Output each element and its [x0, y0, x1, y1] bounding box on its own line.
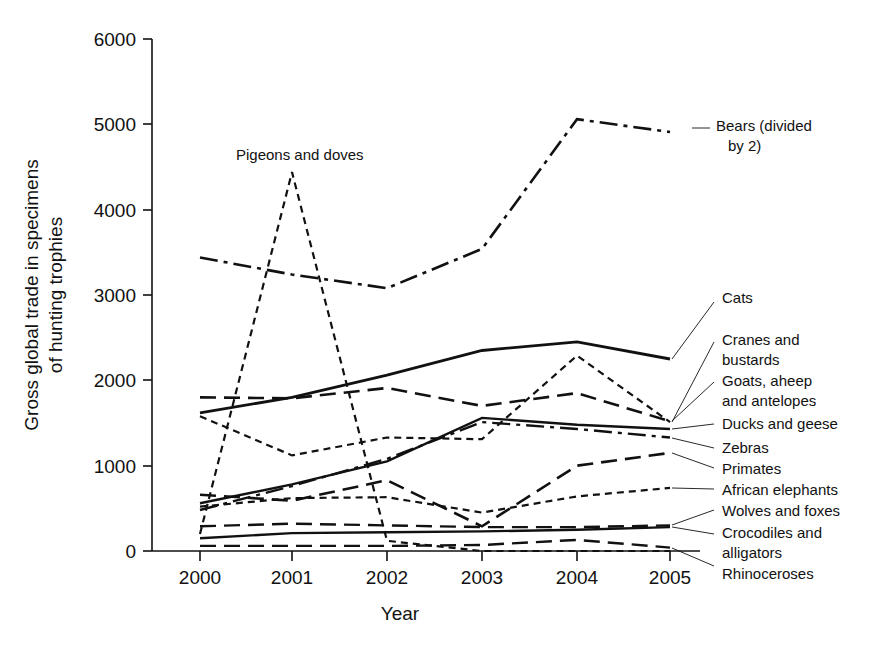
series-line-cats	[200, 342, 670, 413]
x-axis-tick-labels: 2000 2001 2002 2003 2004 2005	[179, 567, 691, 588]
annotation-pigeons-and-doves: Pigeons and doves	[236, 146, 364, 163]
label-ducks-and-geese: Ducks and geese	[722, 415, 838, 432]
leader-goats	[672, 382, 714, 421]
leader-cats	[672, 302, 714, 359]
y-axis-ticks	[143, 39, 152, 551]
label-goats-line1: Goats, aheep	[722, 372, 812, 389]
y-ticklabel-1000: 1000	[94, 456, 136, 477]
label-rhinoceroses: Rhinoceroses	[722, 565, 814, 582]
leader-primates	[672, 453, 714, 468]
leader-crocodiles-alligators	[672, 527, 714, 534]
y-ticklabel-3000: 3000	[94, 285, 136, 306]
leader-zebras	[672, 438, 714, 448]
x-ticklabel-2000: 2000	[179, 567, 221, 588]
series-layer	[200, 119, 670, 551]
label-cranes-line1: Cranes and	[722, 331, 800, 348]
annotation-bears-line1: Bears (divided	[716, 117, 812, 134]
y-ticklabel-2000: 2000	[94, 370, 136, 391]
x-axis-title: Year	[381, 603, 420, 624]
y-axis-title-line1: Gross global trade in specimens	[21, 159, 42, 430]
x-ticklabel-2001: 2001	[271, 567, 313, 588]
leader-wolves-foxes	[672, 510, 714, 525]
leader-ducks-geese	[672, 424, 714, 429]
label-african-elephants: African elephants	[722, 481, 838, 498]
annotation-bears-line2: by 2)	[728, 137, 761, 154]
x-ticklabel-2005: 2005	[649, 567, 691, 588]
y-axis-title-line2: of hunting trophies	[45, 217, 66, 373]
series-line-wolves-and-foxes	[200, 524, 670, 527]
x-axis-ticks	[200, 551, 670, 561]
label-wolves-and-foxes: Wolves and foxes	[722, 502, 840, 519]
leader-lines	[672, 128, 714, 566]
series-line-cranes-and-bustards	[200, 388, 670, 421]
y-ticklabel-4000: 4000	[94, 200, 136, 221]
label-crocodiles-line2: alligators	[722, 544, 782, 561]
y-ticklabel-5000: 5000	[94, 114, 136, 135]
axes-group: 6000 5000 4000 3000 2000 1000 0 2000 200…	[21, 29, 700, 624]
series-line-bears-divided-by-2	[200, 119, 670, 288]
label-primates: Primates	[722, 460, 781, 477]
series-line-rhinoceroses	[200, 540, 670, 548]
label-zebras: Zebras	[722, 439, 769, 456]
label-goats-line2: and antelopes	[722, 392, 816, 409]
x-ticklabel-2004: 2004	[556, 567, 599, 588]
leader-cranes-bustards	[672, 342, 714, 422]
leader-african-elephants	[672, 488, 714, 489]
series-line-zebras	[200, 422, 670, 510]
label-cats: Cats	[722, 289, 753, 306]
annotation-labels: Pigeons and doves Bears (divided by 2) C…	[236, 117, 840, 582]
series-line-crocodiles-and-alligators	[200, 527, 670, 538]
label-cranes-line2: bustards	[722, 351, 780, 368]
chart-figure: 6000 5000 4000 3000 2000 1000 0 2000 200…	[0, 0, 878, 645]
x-ticklabel-2002: 2002	[366, 567, 408, 588]
y-axis-tick-labels: 6000 5000 4000 3000 2000 1000 0	[94, 29, 136, 562]
y-ticklabel-6000: 6000	[94, 29, 136, 50]
y-ticklabel-0: 0	[125, 541, 136, 562]
x-ticklabel-2003: 2003	[461, 567, 503, 588]
label-crocodiles-line1: Crocodiles and	[722, 524, 822, 541]
line-chart-svg: 6000 5000 4000 3000 2000 1000 0 2000 200…	[0, 0, 878, 645]
